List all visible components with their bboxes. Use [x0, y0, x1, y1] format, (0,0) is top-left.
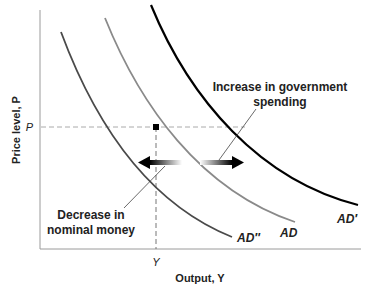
x-axis-label: Output, Y [175, 272, 225, 284]
label-ad-prime: AD′ [336, 212, 358, 226]
curve-ad-double-prime [61, 32, 232, 237]
increase-label-line2: spending [253, 95, 306, 109]
decrease-label-line1: Decrease in [57, 208, 124, 222]
ad-shift-diagram: Increase in government spending Decrease… [0, 0, 371, 294]
curve-ad [105, 18, 295, 222]
increase-label-line1: Increase in government [213, 80, 348, 94]
left-shift-arrow [138, 156, 182, 169]
p-tick-label: P [26, 121, 34, 133]
right-shift-arrow [200, 156, 244, 169]
increase-leader-line [219, 109, 256, 160]
label-ad-double-prime: AD″ [236, 231, 261, 245]
decrease-label-line2: nominal money [47, 223, 135, 237]
decrease-leader-line [124, 166, 165, 208]
y-axis-label: Price level, P [10, 96, 22, 164]
y-tick-label: Y [152, 256, 160, 268]
label-ad: AD [279, 226, 298, 240]
equilibrium-point [153, 124, 159, 130]
